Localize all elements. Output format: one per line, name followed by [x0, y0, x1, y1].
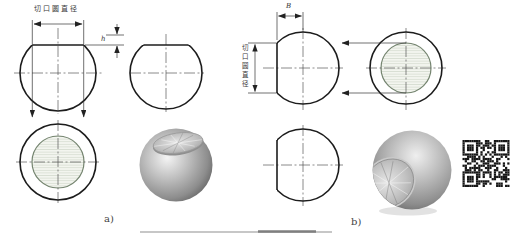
dim-label-cut-circle-diameter-a: 切口圆直径	[34, 6, 79, 13]
sphere-render-b	[352, 131, 452, 220]
front-view-a	[14, 28, 102, 114]
top-view-a	[16, 120, 100, 204]
bottom-rule	[140, 232, 332, 233]
caption-a: a)	[104, 214, 114, 224]
dimensions-b	[248, 12, 406, 93]
dimensions-a	[32, 20, 124, 117]
top-view-b	[263, 125, 343, 206]
qr-code	[463, 140, 510, 187]
engineering-views-drawing	[0, 0, 517, 234]
side-view-a	[130, 34, 204, 112]
truncated-sphere-projection-figure: 切口圆直径 h B 切口圆直径 a) b)	[0, 0, 517, 234]
dim-label-cut-circle-diameter-b: 切口圆直径	[240, 44, 247, 94]
sphere-render-a	[140, 129, 213, 202]
dim-label-depth-b: B	[286, 3, 291, 10]
dim-label-depth-a: h	[101, 36, 106, 43]
side-view-b	[366, 28, 446, 110]
front-view-b	[263, 28, 343, 110]
caption-b: b)	[351, 217, 361, 227]
